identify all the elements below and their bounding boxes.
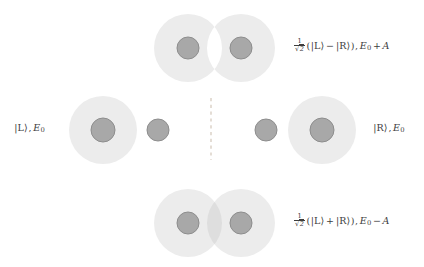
nucleus-left	[177, 212, 199, 234]
fraction-denominator: √2	[294, 220, 305, 228]
radicand: 2	[299, 219, 304, 228]
label-localized-left-state: |L⟩,E0	[14, 123, 45, 134]
state-right-localized	[255, 96, 356, 164]
close-paren: )	[351, 215, 355, 226]
tunnelling-amplitude-A: A	[383, 215, 390, 226]
nucleus-occupied-left	[91, 118, 115, 142]
label-antisymmetric-state: 1 √2 (|L⟩−|R⟩),E0+A	[294, 38, 390, 53]
nucleus-bare-left	[255, 119, 277, 141]
close-paren: )	[351, 40, 355, 51]
electron-cloud-pair-antisymmetric	[154, 14, 275, 82]
fraction-one-over-sqrt-two: 1 √2	[294, 213, 307, 228]
quantum-two-state-diagram: 1 √2 (|L⟩−|R⟩),E0+A 1 √2 (|L⟩+|R⟩),E0−A …	[0, 0, 424, 267]
ket-R: |R⟩	[336, 215, 351, 226]
energy-symbol: E	[360, 215, 367, 226]
nucleus-bare-right	[147, 119, 169, 141]
energy-operator: −	[371, 215, 382, 226]
nucleus-occupied-right	[310, 118, 334, 142]
fraction-denominator: √2	[294, 45, 305, 53]
nucleus-right	[230, 212, 252, 234]
label-localized-right-state: |R⟩,E0	[373, 123, 405, 134]
ket-R: |R⟩	[373, 122, 388, 133]
ket-L: |L⟩	[14, 122, 28, 133]
nucleus-right	[230, 37, 252, 59]
superposition-operator: −	[325, 40, 336, 51]
energy-operator: +	[371, 40, 382, 51]
ket-L: |L⟩	[310, 215, 324, 226]
radicand: 2	[299, 44, 304, 53]
fraction-one-over-sqrt-two: 1 √2	[294, 38, 307, 53]
superposition-operator: +	[325, 215, 336, 226]
nucleus-left	[177, 37, 199, 59]
state-top-antisymmetric	[154, 14, 275, 82]
state-left-localized	[69, 96, 169, 164]
state-bottom-symmetric	[154, 189, 275, 257]
energy-subscript: 0	[400, 126, 405, 134]
ket-R: |R⟩	[336, 40, 351, 51]
energy-symbol: E	[360, 40, 367, 51]
label-symmetric-state: 1 √2 (|L⟩+|R⟩),E0−A	[294, 213, 390, 228]
ket-L: |L⟩	[310, 40, 324, 51]
energy-subscript: 0	[40, 126, 45, 134]
tunnelling-amplitude-A: A	[383, 40, 390, 51]
